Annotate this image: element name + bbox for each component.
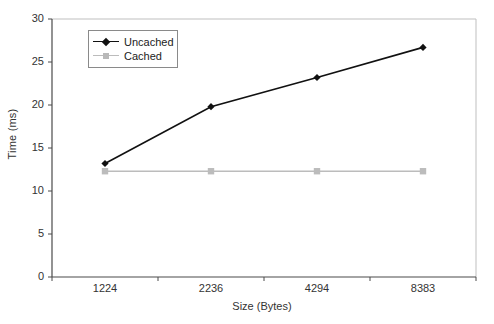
legend-label-uncached: Uncached xyxy=(124,36,174,48)
data-point-uncached xyxy=(419,44,426,51)
x-tick-label: 1224 xyxy=(93,282,117,294)
legend-label-cached: Cached xyxy=(124,50,162,62)
plot-area xyxy=(0,0,494,324)
x-tick-label: 4294 xyxy=(305,282,329,294)
data-point-uncached xyxy=(313,74,320,81)
legend-item-uncached: Uncached xyxy=(93,35,172,49)
legend-item-cached: Cached xyxy=(93,49,172,63)
x-tick-label: 2236 xyxy=(199,282,223,294)
data-point-cached xyxy=(420,168,426,174)
chart-container: Time (ms) 051015202530 1224223642948383 … xyxy=(0,0,494,324)
legend-marker-uncached xyxy=(93,36,119,48)
legend-marker-cached xyxy=(93,50,119,62)
data-point-cached xyxy=(314,168,320,174)
data-point-cached xyxy=(102,168,108,174)
chart-legend: Uncached Cached xyxy=(88,30,178,68)
data-point-uncached xyxy=(101,160,108,167)
x-tick-label: 8383 xyxy=(411,282,435,294)
x-axis-tick-labels: 1224223642948383 xyxy=(0,282,494,300)
x-axis-label: Size (Bytes) xyxy=(52,300,472,312)
data-point-cached xyxy=(208,168,214,174)
data-point-uncached xyxy=(207,103,214,110)
